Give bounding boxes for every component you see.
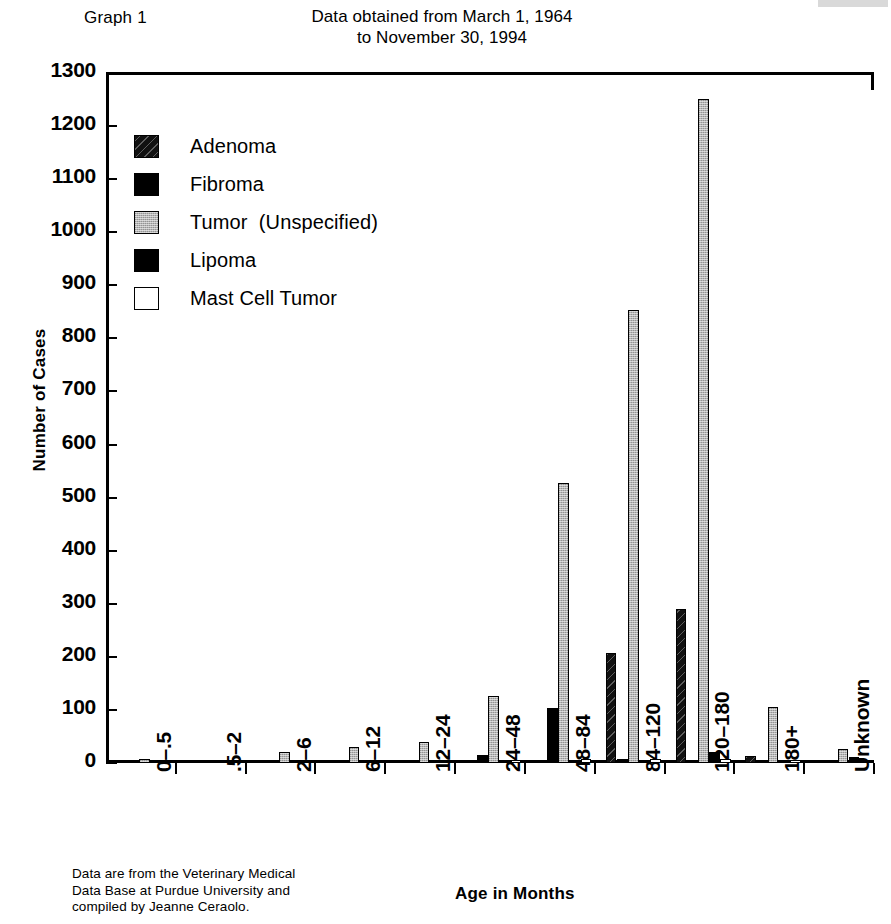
legend-item: Lipoma [134, 241, 378, 279]
bar [768, 707, 779, 763]
bar [139, 759, 150, 763]
legend-label: Tumor (Unspecified) [190, 211, 378, 234]
chart-legend: AdenomaFibromaTumor (Unspecified)LipomaM… [134, 127, 378, 317]
bar [650, 759, 661, 763]
legend-item: Fibroma [134, 165, 378, 203]
legend-label: Adenoma [190, 135, 276, 158]
bar [676, 609, 687, 763]
legend-swatch-icon [134, 211, 159, 234]
legend-label: Fibroma [190, 173, 264, 196]
legend-swatch-icon [134, 249, 159, 272]
legend-label: Lipoma [190, 249, 256, 272]
bar [745, 756, 756, 763]
bar [407, 760, 418, 763]
legend-item: Mast Cell Tumor [134, 279, 378, 317]
bar [558, 483, 569, 763]
legend-item: Tumor (Unspecified) [134, 203, 378, 241]
bar [581, 759, 592, 763]
bar [349, 747, 360, 763]
legend-swatch-icon [134, 173, 159, 196]
footnote-line-3: compiled by Jeanne Ceraolo. [72, 899, 295, 916]
bar [709, 752, 720, 763]
footnote-line-1: Data are from the Veterinary Medical [72, 866, 295, 883]
bar [606, 653, 617, 763]
bar [488, 696, 499, 763]
legend-swatch-icon [134, 287, 159, 310]
chart-footnote: Data are from the Veterinary Medical Dat… [72, 866, 295, 916]
bar [628, 310, 639, 763]
legend-item: Adenoma [134, 127, 378, 165]
legend-label: Mast Cell Tumor [190, 287, 337, 310]
bar [687, 760, 698, 763]
footnote-line-2: Data Base at Purdue University and [72, 883, 295, 900]
bar [849, 757, 860, 763]
bar [617, 759, 628, 763]
bar [838, 749, 849, 763]
bar [477, 755, 488, 763]
bar [790, 760, 801, 763]
bar [419, 742, 430, 763]
bar [511, 760, 522, 763]
bar [547, 708, 558, 763]
legend-swatch-icon [134, 135, 159, 158]
chart-figure: Graph 1 Data obtained from March 1, 1964… [0, 0, 891, 924]
bar [698, 99, 709, 763]
bar [279, 752, 290, 763]
bar [720, 759, 731, 763]
